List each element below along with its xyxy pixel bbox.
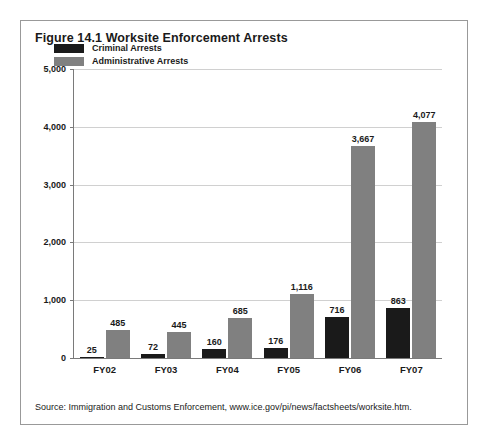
- source-note: Source: Immigration and Customs Enforcem…: [35, 402, 412, 412]
- bar-fy07-criminal: 863: [386, 308, 410, 358]
- bar-value-label: 1,116: [291, 282, 313, 292]
- legend-swatch-administrative-arrests: [54, 57, 84, 66]
- x-axis-line: [73, 358, 442, 359]
- y-axis-tick-mark: [70, 358, 74, 359]
- bar-value-label: 716: [329, 305, 344, 315]
- bar-fy05-administrative: 1,116: [290, 294, 314, 359]
- bar-fy05-criminal: 176: [264, 348, 288, 358]
- chart-plot-area: 01,0002,0003,0004,0005,000 25485FY027244…: [74, 69, 442, 358]
- bar-value-label: 863: [391, 296, 406, 306]
- y-axis-tick-label: 4,000: [43, 122, 66, 132]
- bar-group-fy04: 160685FY04: [197, 69, 258, 358]
- bar-value-label: 4,077: [413, 110, 436, 120]
- x-axis-category-label-fy04: FY04: [216, 364, 239, 375]
- x-axis-category-label-fy06: FY06: [339, 364, 362, 375]
- bar-fy06-administrative: 3,667: [351, 146, 375, 358]
- figure-frame: Figure 14.1 Worksite Enforcement Arrests…: [20, 20, 468, 425]
- bar-fy03-administrative: 445: [167, 332, 191, 358]
- legend-swatch-criminal-arrests: [54, 44, 84, 53]
- bar-value-label: 160: [207, 337, 222, 347]
- bar-group-fy07: 8634,077FY07: [381, 69, 442, 358]
- y-axis-tick-label: 2,000: [43, 237, 66, 247]
- legend-label-administrative-arrests: Administrative Arrests: [92, 56, 188, 66]
- bar-group-fy06: 7163,667FY06: [319, 69, 380, 358]
- bar-fy02-criminal: 25: [80, 357, 104, 358]
- x-axis-category-label-fy07: FY07: [400, 364, 423, 375]
- bar-group-fy05: 1761,116FY05: [258, 69, 319, 358]
- bar-fy02-administrative: 485: [106, 330, 130, 358]
- bar-value-label: 485: [110, 318, 125, 328]
- bar-fy07-administrative: 4,077: [412, 122, 436, 358]
- bar-fy04-criminal: 160: [202, 349, 226, 358]
- legend-item-administrative-arrests: Administrative Arrests: [54, 56, 188, 66]
- bar-group-fy02: 25485FY02: [74, 69, 135, 358]
- bar-value-label: 685: [233, 306, 248, 316]
- y-axis-tick-label: 3,000: [43, 180, 66, 190]
- bar-value-label: 25: [87, 345, 97, 355]
- x-axis-category-label-fy03: FY03: [155, 364, 178, 375]
- legend-label-criminal-arrests: Criminal Arrests: [92, 43, 162, 53]
- y-axis-tick-label: 1,000: [43, 295, 66, 305]
- bar-fy03-criminal: 72: [141, 354, 165, 358]
- legend-item-criminal-arrests: Criminal Arrests: [54, 43, 188, 53]
- x-axis-category-label-fy02: FY02: [93, 364, 116, 375]
- bar-fy06-criminal: 716: [325, 317, 349, 358]
- y-axis-tick-label: 0: [61, 353, 66, 363]
- bar-group-fy03: 72445FY03: [135, 69, 196, 358]
- bar-fy04-administrative: 685: [228, 318, 252, 358]
- bar-value-label: 72: [148, 342, 158, 352]
- chart-legend: Criminal Arrests Administrative Arrests: [54, 43, 188, 69]
- bar-value-label: 3,667: [352, 134, 375, 144]
- x-axis-category-label-fy05: FY05: [277, 364, 300, 375]
- bar-value-label: 176: [268, 336, 283, 346]
- bar-value-label: 445: [171, 320, 186, 330]
